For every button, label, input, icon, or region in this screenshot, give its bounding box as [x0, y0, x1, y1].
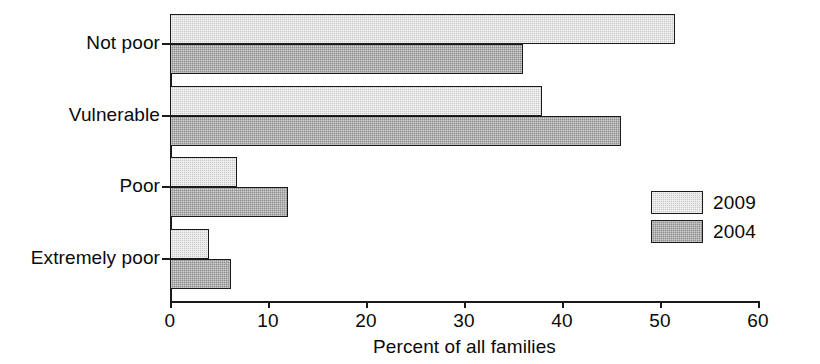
bar-not-poor-2009: [170, 14, 675, 44]
y-tick-extremely-poor: [162, 258, 170, 260]
category-label-poor: Poor: [119, 175, 160, 197]
x-tick-40: [562, 301, 564, 308]
category-label-vulnerable: Vulnerable: [69, 104, 160, 126]
x-tick-0: [170, 301, 172, 308]
bar-chart: 0102030405060 Not poorVulnerablePoorExtr…: [0, 0, 820, 364]
x-tick-60: [758, 301, 760, 308]
x-tick-30: [464, 301, 466, 308]
bar-poor-2004: [170, 187, 288, 217]
x-axis-title: Percent of all families: [170, 336, 759, 358]
bar-extremely-poor-2004: [170, 259, 231, 289]
x-tick-label-0: 0: [165, 310, 176, 332]
x-tick-label-30: 30: [453, 310, 475, 332]
category-label-extremely-poor: Extremely poor: [31, 247, 160, 269]
light-gray-swatch: [651, 191, 703, 214]
category-label-not-poor: Not poor: [86, 32, 160, 54]
bar-not-poor-2004: [170, 44, 523, 74]
legend-label-2009: 2009: [713, 192, 756, 214]
bar-vulnerable-2004: [170, 116, 621, 146]
y-tick-not-poor: [162, 43, 170, 45]
legend-label-2004: 2004: [713, 221, 756, 243]
y-tick-vulnerable: [162, 115, 170, 117]
x-tick-20: [366, 301, 368, 308]
bar-vulnerable-2009: [170, 86, 542, 116]
x-tick-50: [660, 301, 662, 308]
y-label-wrap: Extremely poor: [0, 247, 160, 269]
x-tick-10: [268, 301, 270, 308]
x-tick-label-20: 20: [355, 310, 377, 332]
x-tick-label-60: 60: [747, 310, 769, 332]
legend-row-2004: 2004: [651, 217, 756, 246]
y-label-wrap: Not poor: [0, 32, 160, 54]
plot-area: [170, 14, 758, 301]
y-label-wrap: Vulnerable: [0, 104, 160, 126]
x-tick-label-40: 40: [551, 310, 573, 332]
y-tick-poor: [162, 186, 170, 188]
y-label-wrap: Poor: [0, 175, 160, 197]
legend-row-2009: 2009: [651, 188, 756, 217]
bar-extremely-poor-2009: [170, 229, 209, 259]
dark-gray-swatch: [651, 220, 703, 243]
chart-legend: 20092004: [651, 188, 756, 246]
bar-poor-2009: [170, 157, 237, 187]
x-tick-label-10: 10: [257, 310, 279, 332]
x-tick-label-50: 50: [649, 310, 671, 332]
